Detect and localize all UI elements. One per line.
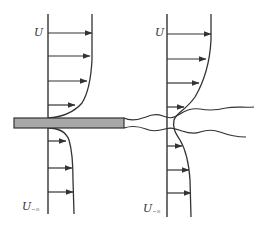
lower-wake-line	[124, 127, 246, 137]
label-text: U	[155, 26, 164, 39]
left-upper-velocity-profile	[48, 14, 92, 118]
right-bottom-velocity-label: U−∞	[143, 203, 161, 214]
label-subscript: −∞	[31, 206, 39, 212]
label-text: U	[34, 26, 43, 39]
right-wake-velocity-profile	[173, 14, 211, 217]
flat-plate	[14, 118, 124, 128]
label-text: U	[22, 200, 31, 213]
upper-wake-line	[124, 107, 254, 120]
label-text: U	[143, 202, 152, 215]
right-top-velocity-label: U	[155, 27, 164, 38]
label-subscript: −∞	[152, 208, 160, 214]
left-top-velocity-label: U	[34, 27, 43, 38]
left-bottom-velocity-label: U−∞	[22, 201, 40, 212]
